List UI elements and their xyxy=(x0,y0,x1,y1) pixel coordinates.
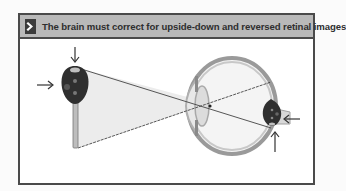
down-arrow-icon xyxy=(71,47,79,62)
up-arrow-icon xyxy=(271,132,279,152)
nodal-point xyxy=(208,104,211,107)
right-arrow-icon xyxy=(37,81,53,89)
